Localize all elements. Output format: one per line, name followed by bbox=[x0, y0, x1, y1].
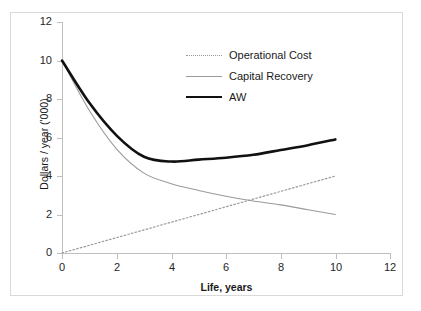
series-line-operational-cost bbox=[62, 176, 335, 253]
chart-root: 12 10 8 6 4 2 0 0 2 4 6 8 10 12 Life, ye… bbox=[0, 0, 421, 311]
series-layer bbox=[0, 0, 421, 311]
series-line-aw bbox=[62, 61, 335, 162]
series-line-capital-recovery bbox=[62, 61, 335, 215]
